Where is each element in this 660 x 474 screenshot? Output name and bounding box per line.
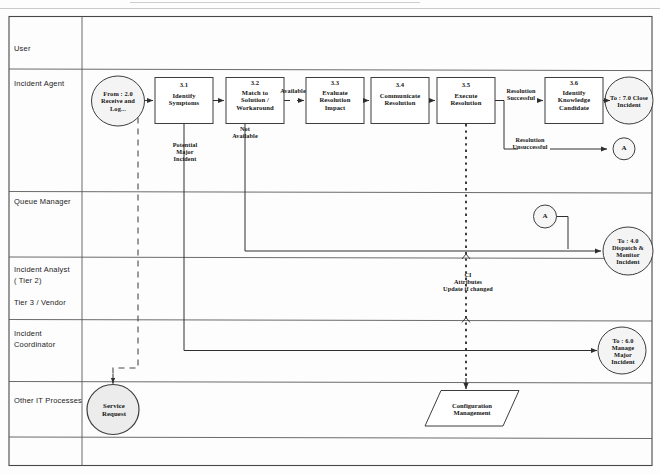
flow-label-available: Available [274, 88, 312, 95]
process-36-number: 3.6 [545, 79, 603, 86]
flow-label-resolution-successful: Resolution Successful [498, 88, 544, 102]
flow-label-not-available: Not Available [226, 126, 264, 140]
connector-a-queue-label: A [534, 211, 556, 223]
process-32-number: 3.2 [226, 79, 284, 86]
terminator-dispatch-monitor-label: To : 4.0 Dispatch & Monitor Incident [602, 234, 654, 268]
swimlane-dividers [9, 69, 652, 439]
connector-a-right-label: A [613, 143, 635, 155]
diagram-canvas: User Incident Agent Queue Manager Incide… [0, 0, 660, 474]
process-33-label: Evaluate Resolution Impact [306, 89, 364, 111]
terminator-close-incident-label: To : 7.0 Close Incident [604, 91, 654, 111]
flow-label-ci-attributes: CI Attributes Update if changed [428, 272, 508, 293]
lane-label-user: User [14, 44, 80, 55]
lane-label-incident-agent: Incident Agent [14, 79, 84, 90]
process-35-label: Execute Resolution [437, 92, 495, 107]
lane-label-other-it-processes: Other IT Processes [14, 396, 88, 407]
flow-label-resolution-unsuccessful: Resolution Unsuccessful [505, 137, 555, 151]
terminator-service-request-label: Service Request [89, 400, 139, 420]
flow-connector-a-to-dispatch [557, 217, 569, 250]
data-store-configuration-management-label: Configuration Management [432, 399, 512, 419]
process-35-number: 3.5 [437, 81, 495, 88]
process-33-number: 3.3 [306, 79, 364, 86]
process-31-label: Identify Symptoms [155, 92, 213, 107]
lane-label-queue-manager: Queue Manager [14, 197, 84, 208]
terminator-start-label: From : 2.0 Receive and Log... [92, 86, 144, 116]
flow-potential-major-incident [184, 124, 597, 351]
process-36-label: Identify Knowledge Candidate [545, 89, 603, 111]
terminator-manage-major-label: To : 6.0 Manage Major Incident [598, 334, 648, 368]
process-34-number: 3.4 [371, 81, 429, 88]
lane-label-incident-analyst: Incident Analyst ( Tier 2) Tier 3 / Vend… [14, 265, 86, 309]
process-34-label: Communicate Resolution [371, 92, 429, 107]
process-31-number: 3.1 [155, 81, 213, 88]
lane-label-incident-coordinator: Incident Coordinator [14, 329, 84, 351]
flow-label-potential-major-incident: Potential Major Incident [166, 142, 204, 163]
flow-service-request-dashed [113, 115, 138, 385]
